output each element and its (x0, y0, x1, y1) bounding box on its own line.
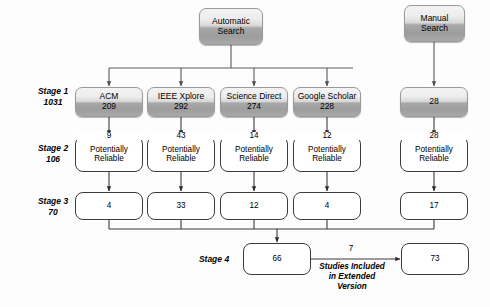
stage-label-stage-1: Stage 1 1031 (25, 86, 81, 107)
stage2-google-scholar-line2: Reliable (312, 154, 342, 163)
stage-3-name: Stage 3 (25, 196, 81, 207)
stage2-acm-line1: Potentially (90, 145, 128, 154)
flow-diagram: Automatic Search Manual Search Stage 1 1… (0, 0, 490, 307)
stage-2-name: Stage 2 (25, 143, 81, 154)
stage2-box-science-direct[interactable]: 14 Potentially Reliable (220, 136, 288, 172)
stage-2-count: 106 (25, 154, 81, 165)
stage-label-stage-2: Stage 2 106 (25, 143, 81, 164)
stage3-box-science-direct[interactable]: 12 (220, 192, 288, 220)
stage4-box-total[interactable]: 73 (401, 243, 469, 275)
stage2-science-direct-line2: Reliable (239, 154, 269, 163)
stage2-manual-count: 28 (401, 132, 467, 140)
stage2-box-google-scholar[interactable]: 12 Potentially Reliable (293, 136, 361, 172)
stage-label-stage-4: Stage 4 (186, 254, 242, 265)
stage4-extension-caption-line3: Version (306, 282, 398, 292)
stage1-box-acm[interactable]: ACM 209 (75, 87, 143, 117)
stage1-box-google-scholar[interactable]: Google Scholar 228 (293, 87, 361, 117)
stage2-ieee-count: 43 (148, 132, 214, 140)
stage3-box-google-scholar[interactable]: 4 (293, 192, 361, 220)
stage1-science-direct-count: 274 (247, 102, 261, 112)
stage3-science-direct-count: 12 (249, 201, 258, 210)
stage3-ieee-count: 33 (176, 201, 185, 210)
stage4-total-count: 73 (430, 254, 439, 263)
stage4-extension-caption-line1: Studies Included (306, 262, 398, 272)
stage3-manual-count: 17 (429, 201, 438, 210)
stage1-acm-count: 209 (102, 102, 116, 112)
stage2-science-direct-line1: Potentially (235, 145, 273, 154)
stage3-google-scholar-count: 4 (325, 201, 330, 210)
stage1-manual-count: 28 (429, 97, 438, 107)
stage-1-name: Stage 1 (25, 86, 81, 97)
stage2-ieee-line2: Reliable (166, 154, 196, 163)
source-automatic-line2: Search (218, 27, 245, 37)
stage1-google-scholar-count: 228 (320, 102, 334, 112)
stage4-merged-count: 66 (272, 254, 281, 263)
stage-3-count: 70 (25, 207, 81, 218)
stage-1-count: 1031 (25, 97, 81, 108)
stage4-extension-caption: Studies Included in Extended Version (306, 262, 398, 292)
stage2-box-manual[interactable]: 28 Potentially Reliable (400, 136, 468, 172)
stage2-manual-line2: Reliable (419, 154, 449, 163)
stage4-extension-caption-line2: in Extended (306, 272, 398, 282)
stage2-science-direct-count: 14 (221, 132, 287, 140)
stage1-box-manual-results[interactable]: 28 (400, 87, 468, 117)
source-node-automatic-search[interactable]: Automatic Search (199, 8, 263, 45)
stage1-box-science-direct[interactable]: Science Direct 274 (220, 87, 288, 117)
stage1-ieee-count: 292 (174, 102, 188, 112)
stage3-box-manual[interactable]: 17 (400, 192, 468, 220)
stage2-google-scholar-line1: Potentially (308, 145, 346, 154)
stage3-box-ieee-xplore[interactable]: 33 (147, 192, 215, 220)
source-node-manual-search[interactable]: Manual Search (404, 5, 465, 42)
stage-4-name: Stage 4 (186, 254, 242, 265)
source-manual-line2: Search (421, 24, 448, 34)
stage2-box-ieee-xplore[interactable]: 43 Potentially Reliable (147, 136, 215, 172)
stage2-ieee-line1: Potentially (162, 145, 200, 154)
stage4-extension-count: 7 (331, 244, 371, 253)
stage2-acm-line2: Reliable (94, 154, 124, 163)
stage-label-stage-3: Stage 3 70 (25, 196, 81, 217)
stage3-acm-count: 4 (107, 201, 112, 210)
stage4-box-merged[interactable]: 66 (243, 243, 311, 275)
stage2-box-acm[interactable]: 9 Potentially Reliable (75, 136, 143, 172)
stage2-google-scholar-count: 12 (294, 132, 360, 140)
stage2-acm-count: 9 (76, 132, 142, 140)
stage1-box-ieee-xplore[interactable]: IEEE Xplore 292 (147, 87, 215, 117)
stage2-manual-line1: Potentially (415, 145, 453, 154)
stage3-box-acm[interactable]: 4 (75, 192, 143, 220)
